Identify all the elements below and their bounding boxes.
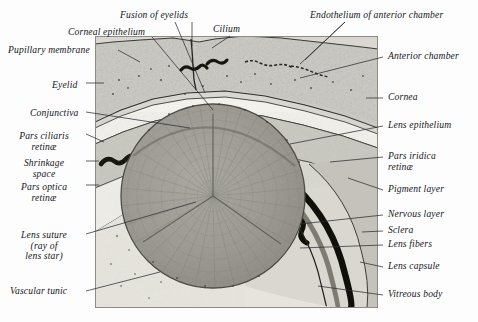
label-endothelium-of-anterior-chamber: Endothelium of anterior chamber (310, 10, 443, 21)
label-vascular-tunic: Vascular tunic (10, 286, 67, 297)
label-pars-ciliaris-retinae: Pars ciliaris retinæ (6, 131, 82, 152)
label-eyelid: Eyelid (52, 80, 77, 91)
label-vitreous-body: Vitreous body (388, 289, 442, 300)
anatomical-plate: Katherine Hilb (0, 0, 478, 322)
label-cilium: Cilium (213, 24, 240, 35)
label-pars-iridica-retinae: Pars iridica retinæ (388, 151, 436, 172)
label-pars-optica-retinae: Pars optica retinæ (6, 182, 82, 203)
label-cornea: Cornea (388, 92, 418, 103)
label-anterior-chamber: Anterior chamber (388, 51, 459, 62)
label-pigment-layer: Pigment layer (388, 184, 444, 195)
label-lens-fibers: Lens fibers (388, 239, 432, 250)
eye-section-illustration: Katherine Hilb (95, 36, 378, 308)
label-lens-suture: Lens suture (ray of lens star) (4, 230, 84, 262)
label-lens-capsule: Lens capsule (388, 261, 440, 272)
label-fusion-of-eyelids: Fusion of eyelids (120, 10, 188, 21)
label-sclera: Sclera (388, 225, 413, 236)
label-corneal-epithelium: Corneal epithelium (68, 27, 145, 38)
label-pupillary-membrane: Pupillary membrane (8, 45, 90, 56)
label-lens-epithelium: Lens epithelium (388, 120, 451, 131)
label-shrinkage-space: Shrinkage space (6, 158, 82, 179)
label-conjunctiva: Conjunctiva (30, 108, 79, 119)
label-nervous-layer: Nervous layer (388, 209, 444, 220)
